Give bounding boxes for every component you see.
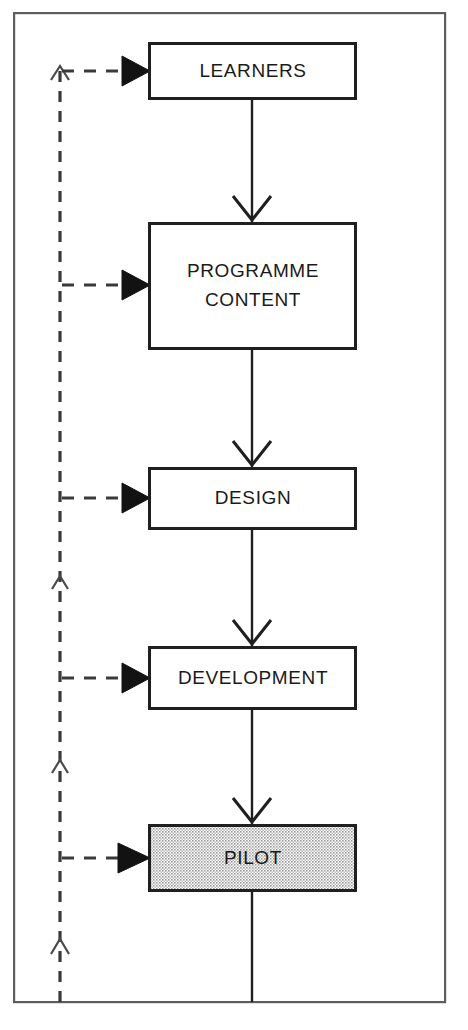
feedback-arrow-triangle-icon xyxy=(122,483,150,513)
node-label: DESIGN xyxy=(215,487,291,508)
diagram-canvas: LEARNERS PROGRAMME CONTENT DESIGN DEVELO… xyxy=(0,0,468,1030)
feedback-branch-programme-content xyxy=(62,270,150,300)
flow-connector-design-to-development xyxy=(233,530,271,646)
node-design[interactable]: DESIGN xyxy=(150,469,356,529)
node-label: DEVELOPMENT xyxy=(178,667,328,688)
feedback-arrow-triangle-icon xyxy=(122,663,150,693)
node-label: LEARNERS xyxy=(199,60,306,81)
node-learners[interactable]: LEARNERS xyxy=(150,44,356,99)
node-pilot[interactable]: PILOT xyxy=(150,826,356,891)
flow-connector-learners-to-programme-content xyxy=(233,100,271,222)
node-box[interactable] xyxy=(150,224,356,349)
flow-connector-programme-content-to-design xyxy=(233,350,271,467)
feedback-branch-design xyxy=(62,483,150,513)
feedback-loop xyxy=(51,56,150,1002)
feedback-branch-learners xyxy=(62,56,150,86)
feedback-branch-pilot xyxy=(62,843,150,873)
feedback-arrow-triangle-icon xyxy=(122,56,150,86)
feedback-branch-development xyxy=(62,663,150,693)
feedback-arrow-triangle-icon xyxy=(122,270,150,300)
flowchart-svg: LEARNERS PROGRAMME CONTENT DESIGN DEVELO… xyxy=(0,0,468,1030)
node-programme-content[interactable]: PROGRAMME CONTENT xyxy=(150,224,356,349)
node-label-line-1: PROGRAMME xyxy=(187,260,319,281)
feedback-arrow-triangle-icon xyxy=(118,843,150,873)
feedback-arrowhead-mid-upper-icon xyxy=(52,576,68,589)
node-label-line-2: CONTENT xyxy=(205,289,301,310)
node-label: PILOT xyxy=(224,847,282,868)
node-development[interactable]: DEVELOPMENT xyxy=(150,648,356,709)
flow-connector-development-to-pilot xyxy=(233,710,271,824)
